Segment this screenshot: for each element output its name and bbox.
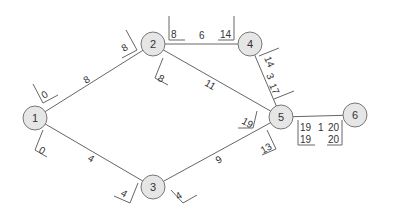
edge-1-2-late: 8	[119, 41, 130, 54]
edge-5-6-late-start: 19	[300, 134, 312, 145]
bracket-4-5-start	[259, 48, 279, 56]
edge-5-6-duration: 1	[318, 122, 324, 133]
edge-4-5-late: 17	[267, 81, 282, 96]
node-6-label: 6	[352, 109, 358, 121]
node-4-label: 4	[247, 38, 253, 50]
edge-1-3-duration: 4	[86, 152, 97, 165]
node-5-label: 5	[278, 111, 284, 123]
edge-1-3	[35, 118, 153, 187]
edge-2-5-early: 8	[156, 72, 167, 85]
edge-1-2-duration: 8	[81, 73, 92, 86]
edge-5-6-early-start: 19	[300, 122, 312, 133]
edge-3-5-duration: 9	[214, 153, 225, 166]
edge-3-5-late: 13	[259, 140, 275, 155]
node-3-label: 3	[150, 181, 156, 193]
edge-4-5-duration: 3	[264, 71, 276, 81]
edge-1-3-early: 0	[37, 144, 48, 157]
node-1-label: 1	[32, 112, 38, 124]
edge-3-5-early: 4	[174, 189, 185, 202]
edge-1-2	[35, 44, 153, 118]
edge-5-6-late-end: 20	[328, 122, 340, 133]
edge-1-3-late: 4	[119, 187, 130, 200]
node-2-label: 2	[150, 38, 156, 50]
edge-2-4-late: 14	[220, 29, 232, 40]
edge-2-4-early: 8	[171, 29, 177, 40]
edge-4-5-early: 14	[262, 54, 277, 69]
edge-5-6-early-end: 20	[328, 134, 340, 145]
edge-2-4-duration: 6	[199, 30, 205, 41]
network-diagram: 8 0 8 4 0 4 6 8 14 11 8 19 9 4 13 3 14 1…	[0, 0, 393, 218]
